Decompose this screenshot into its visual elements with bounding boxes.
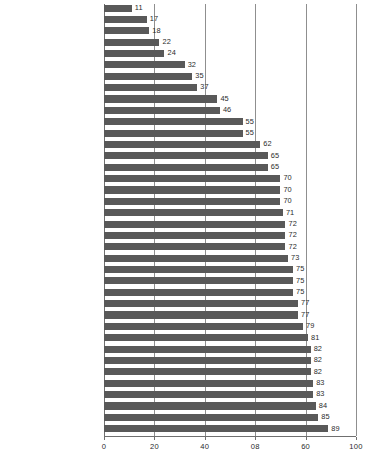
bar-value-label: 18 [152,26,160,36]
bar-value-label: 79 [306,321,314,331]
bar [104,186,280,193]
bar-value-label: 83 [316,389,324,399]
x-tick-mark [154,437,155,440]
bar-value-label: 32 [188,60,196,70]
bar-rows: Serbia11Hungary17China18Russia22Czech Re… [104,4,356,436]
plot-area: Serbia11Hungary17China18Russia22Czech Re… [104,4,356,436]
bar-value-label: 73 [291,253,299,263]
bar-value-label: 89 [331,424,339,434]
bar-value-label: 70 [283,196,291,206]
bar-value-label: 24 [167,48,175,58]
bar-row: China18 [104,27,356,38]
x-tick-label: 60 [301,442,310,451]
bar-row: South Korea35 [104,72,356,83]
bar-value-label: 81 [311,333,319,343]
x-tick-mark [205,437,206,440]
bar-value-label: 82 [314,367,322,377]
bar [104,209,283,216]
bar-row: Denmark84 [104,402,356,413]
bar [104,27,149,34]
bar [104,16,147,23]
bar [104,198,280,205]
bar [104,141,260,148]
bar-row: Russia22 [104,38,356,49]
bar-row: Indonesia32 [104,61,356,72]
bar [104,130,243,137]
bar [104,311,298,318]
bar-value-label: 71 [286,208,294,218]
bar-value-label: 65 [271,162,279,172]
bar [104,107,220,114]
bar-value-label: 77 [301,310,309,320]
x-tick-mark [104,437,105,440]
bar [104,425,328,432]
bar [104,152,268,159]
bar-value-label: 70 [283,185,291,195]
bar [104,243,285,250]
bar [104,73,192,80]
bar-row: Czech Republic24 [104,49,356,60]
bar [104,414,318,421]
bar [104,84,197,91]
bar [104,289,293,296]
bar-value-label: 85 [321,412,329,422]
bar-row: Finland70 [104,175,356,186]
bar-value-label: 75 [296,276,304,286]
bar-row: Curaçao70 [104,197,356,208]
bar-value-label: 72 [288,230,296,240]
bar-value-label: 37 [200,82,208,92]
x-tick-label: 08 [251,442,260,451]
bar-row: Poland71 [104,209,356,220]
bar-row: Ethiopia73 [104,254,356,265]
bar-value-label: 83 [316,378,324,388]
bar [104,5,132,12]
bar [104,255,288,262]
bar-row: Burkina Faso72 [104,231,356,242]
bar [104,266,293,273]
bar [104,221,285,228]
bar [104,175,280,182]
bar [104,277,293,284]
bar-row: Norway77 [104,300,356,311]
bar [104,323,303,330]
bar-row: Sweden89 [104,425,356,436]
x-tick-mark [255,437,256,440]
bar [104,50,164,57]
bar [104,300,298,307]
bar-row: Greece70 [104,186,356,197]
bar-row: Nepal62 [104,140,356,151]
bar-row: India46 [104,106,356,117]
bar-row: Germany65 [104,152,356,163]
bar-value-label: 77 [301,298,309,308]
bar-value-label: 72 [288,219,296,229]
x-tick-label: 40 [200,442,209,451]
bar-row: Malaysia75 [104,277,356,288]
bar-chart: Serbia11Hungary17China18Russia22Czech Re… [0,0,379,468]
bar-value-label: 46 [223,105,231,115]
bar-value-label: 17 [150,14,158,24]
bar-value-label: 55 [246,117,254,127]
bar-value-label: 45 [220,94,228,104]
bar-value-label: 84 [319,401,327,411]
bar [104,118,243,125]
bar [104,39,159,46]
bar-value-label: 11 [135,3,143,13]
bar-value-label: 55 [246,128,254,138]
x-tick-label: 100 [349,442,362,451]
bar-value-label: 82 [314,344,322,354]
bar [104,346,311,353]
bar [104,95,217,102]
bar-value-label: 75 [296,264,304,274]
bar-value-label: 65 [271,151,279,161]
bar-row: Italy75 [104,265,356,276]
bar-row: Singapore72 [104,220,356,231]
bar-row: Canada77 [104,311,356,322]
bar-value-label: 72 [288,242,296,252]
x-tick-label: 20 [150,442,159,451]
x-tick-mark [356,437,357,440]
x-tick-label: 0 [102,442,106,451]
bar [104,61,185,68]
bar [104,357,311,364]
bar-row: Kuwait55 [104,118,356,129]
bar-value-label: 22 [162,37,170,47]
